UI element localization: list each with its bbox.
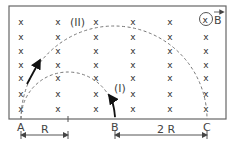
field-cross-icon: x xyxy=(55,46,61,56)
field-cross-icon: x xyxy=(167,17,173,27)
field-cross-icon: x xyxy=(55,104,61,114)
field-cross-icon: x xyxy=(130,46,136,56)
field-cross-icon: x xyxy=(203,32,209,42)
field-cross-icon: x xyxy=(130,89,136,99)
field-cross-icon: x xyxy=(130,73,136,83)
field-cross-icon: x xyxy=(167,104,173,114)
field-cross-icon: x xyxy=(18,73,24,83)
field-region xyxy=(9,6,226,119)
label-dimension-2r: 2 R xyxy=(157,123,175,136)
field-cross-icon: x xyxy=(167,46,173,56)
magnetic-field-diagram: xxxxxxxxxxxxxxxxxxxxxxxxxxxxxxxxxxxxxxxx… xyxy=(0,0,233,147)
field-cross-icon: x xyxy=(167,73,173,83)
field-cross-icon: x xyxy=(203,46,209,56)
field-cross-icon: x xyxy=(203,73,209,83)
label-path-i: (I) xyxy=(114,82,126,95)
field-cross: x xyxy=(203,15,209,25)
path-i-trajectory xyxy=(21,72,115,119)
field-cross-icon: x xyxy=(167,89,173,99)
field-cross-icon: x xyxy=(55,60,61,70)
field-cross-icon: x xyxy=(93,46,99,56)
field-cross-icon: x xyxy=(203,60,209,70)
label-dimension-r: R xyxy=(41,123,49,136)
field-cross-icon: x xyxy=(93,89,99,99)
field-cross-icon: x xyxy=(130,32,136,42)
field-cross-icon: x xyxy=(55,17,61,27)
field-cross-icon: x xyxy=(18,60,24,70)
field-cross-icon: x xyxy=(93,17,99,27)
field-cross-icon: x xyxy=(55,73,61,83)
velocity-arrow-ii xyxy=(27,60,40,84)
field-cross-icon: x xyxy=(18,17,24,27)
field-cross-icon: x xyxy=(93,60,99,70)
label-path-ii: (II) xyxy=(70,16,85,29)
field-cross-icon: x xyxy=(55,89,61,99)
field-cross-icon: x xyxy=(18,32,24,42)
field-cross-icon: x xyxy=(167,32,173,42)
field-cross-icon: x xyxy=(18,89,24,99)
field-cross-icon: x xyxy=(55,32,61,42)
field-cross-icon: x xyxy=(167,60,173,70)
field-cross-icon: x xyxy=(18,46,24,56)
field-cross-icon: x xyxy=(130,17,136,27)
field-cross-icon: x xyxy=(93,32,99,42)
velocity-arrow-i xyxy=(109,95,115,117)
field-cross-icon: x xyxy=(93,104,99,114)
label-b-field: B xyxy=(214,14,222,27)
field-cross-icon: x xyxy=(130,60,136,70)
field-crosses: xxxxxxxxxxxxxxxxxxxxxxxxxxxxxxxxxxxxxxxx… xyxy=(18,17,209,114)
field-cross-icon: x xyxy=(93,73,99,83)
field-cross-icon: x xyxy=(130,104,136,114)
